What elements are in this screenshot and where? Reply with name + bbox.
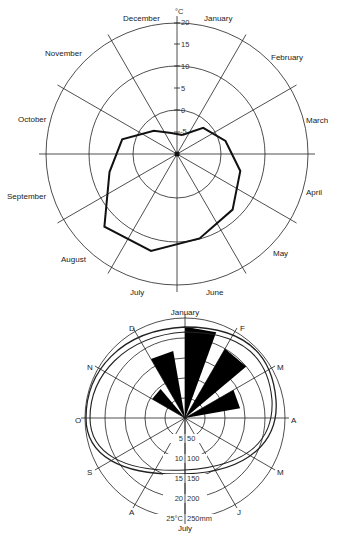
month-label: A — [291, 416, 297, 425]
tick-label: 10 — [181, 62, 189, 71]
month-label: June — [206, 288, 224, 297]
tick-precip: 200 — [187, 494, 200, 503]
month-label: J — [237, 508, 241, 517]
tick-precip: 250mm — [187, 514, 212, 523]
tick-label: -5 — [180, 127, 187, 136]
month-label: O — [75, 416, 81, 425]
month-label: January — [204, 14, 232, 23]
month-labels-top: January February March April May June Ju… — [7, 14, 328, 297]
climate-charts: °C 20 15 10 5 0 -5 January February Marc… — [0, 0, 337, 538]
month-label: N — [87, 363, 93, 372]
tick-label: 5 — [181, 84, 185, 93]
polar-tick-labels: 5 50 10 100 15 150 20 200 25°C 250mm — [152, 418, 218, 524]
month-label: F — [240, 324, 245, 333]
month-label: April — [306, 188, 322, 197]
month-label: M — [277, 468, 284, 477]
tick-precip: 100 — [187, 454, 200, 463]
tick-precip: 50 — [187, 434, 195, 443]
month-label: D — [129, 324, 135, 333]
month-label: S — [87, 468, 92, 477]
month-label: July — [178, 524, 192, 533]
month-label: May — [273, 249, 288, 258]
month-label: A — [129, 508, 135, 517]
month-label: August — [61, 255, 87, 264]
tick-label: 20 — [181, 18, 189, 27]
tick-temp: 15 — [175, 474, 183, 483]
tick-temp: 25°C — [166, 514, 183, 523]
month-label: M — [277, 363, 284, 372]
center-dot — [175, 152, 180, 157]
month-label: July — [130, 288, 144, 297]
tick-label: 15 — [181, 40, 189, 49]
month-label: December — [123, 14, 160, 23]
month-label: November — [45, 49, 82, 58]
month-label: March — [306, 116, 328, 125]
month-label: February — [271, 53, 303, 62]
tick-precip: 150 — [187, 474, 200, 483]
month-label: September — [7, 192, 46, 201]
tick-temp: 20 — [175, 494, 183, 503]
unit-label: °C — [175, 7, 184, 16]
tick-temp: 10 — [175, 454, 183, 463]
month-label: October — [18, 115, 47, 124]
tick-label: 0 — [181, 106, 185, 115]
tick-temp: 5 — [179, 434, 183, 443]
month-label: January — [171, 308, 199, 317]
